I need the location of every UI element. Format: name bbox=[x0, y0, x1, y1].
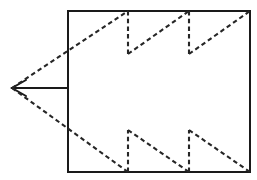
upper-ramp-segment-1 bbox=[12, 11, 128, 88]
lower-ramp-segment-1 bbox=[12, 88, 128, 172]
lower-ramp-segment-2 bbox=[128, 130, 189, 172]
upper-ramp-segment-2 bbox=[128, 11, 189, 54]
lower-ramp-segment-3 bbox=[189, 130, 250, 172]
upper-ramp-segment-3 bbox=[189, 11, 250, 54]
diagram-canvas bbox=[0, 0, 257, 180]
diagram-svg bbox=[0, 0, 257, 180]
